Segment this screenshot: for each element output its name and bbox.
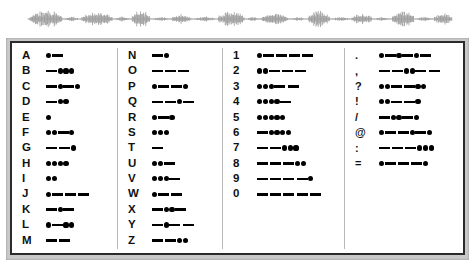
morse-dash: [257, 178, 268, 181]
morse-dot: [46, 176, 51, 181]
morse-dot: [410, 68, 415, 73]
morse-dot: [414, 53, 419, 58]
audio-waveform-panel: [0, 0, 475, 40]
code-row: T: [128, 140, 222, 155]
code-marks: [379, 79, 426, 94]
code-row: K: [22, 202, 117, 217]
morse-dot: [282, 145, 287, 150]
code-marks: [257, 48, 313, 63]
code-row: N: [128, 48, 222, 63]
morse-dot: [69, 222, 74, 227]
code-row: 2: [233, 63, 344, 78]
code-marks: [152, 140, 163, 155]
morse-dot: [288, 145, 293, 150]
code-marks: [46, 63, 74, 78]
morse-dot: [301, 161, 306, 166]
code-marks: [46, 156, 69, 171]
code-row: /: [355, 110, 463, 125]
code-marks: [152, 94, 194, 109]
morse-dot: [280, 115, 285, 120]
morse-dot: [158, 161, 163, 166]
code-row: 0: [233, 187, 344, 202]
morse-dash: [297, 193, 308, 196]
code-marks: [46, 187, 89, 202]
code-marks: [46, 217, 74, 232]
morse-dot: [295, 161, 300, 166]
code-row: 3: [233, 79, 344, 94]
morse-dot: [257, 99, 262, 104]
morse-dot: [46, 115, 51, 120]
code-marks: [379, 140, 434, 155]
code-key: W: [128, 188, 152, 200]
morse-dot: [58, 207, 63, 212]
morse-dash: [295, 70, 306, 73]
code-marks: [379, 110, 419, 125]
code-marks: [257, 140, 299, 155]
morse-dash: [171, 193, 182, 196]
code-row: O: [128, 63, 222, 78]
code-key: 1: [233, 50, 257, 62]
code-key: /: [355, 112, 379, 123]
code-row: @: [355, 125, 463, 140]
code-marks: [46, 79, 80, 94]
morse-dot: [58, 99, 63, 104]
morse-code-chart-screenshot: ABCDEFGHIJKLMNOPQRSTUVWXYZ1234567890.,?!…: [0, 0, 475, 264]
morse-dot: [427, 130, 432, 135]
morse-dot: [423, 161, 428, 166]
morse-dot: [75, 84, 80, 89]
morse-dot: [52, 130, 57, 135]
morse-dot: [177, 99, 182, 104]
morse-dash: [52, 193, 63, 196]
morse-dot: [414, 115, 419, 120]
morse-dash: [152, 70, 163, 73]
code-key: Y: [128, 219, 152, 231]
morse-dash: [59, 147, 70, 150]
morse-dot: [63, 68, 68, 73]
code-row: Y: [128, 217, 222, 232]
code-row: Z: [128, 233, 222, 248]
code-key: 3: [233, 81, 257, 93]
morse-dot: [63, 161, 68, 166]
code-row: ?: [355, 79, 463, 94]
code-row: A: [22, 48, 117, 63]
morse-dash: [46, 239, 57, 242]
morse-dot: [385, 84, 390, 89]
code-column-letters-a-m: ABCDEFGHIJKLM: [12, 48, 117, 249]
morse-dot: [415, 99, 420, 104]
code-row: Q: [128, 94, 222, 109]
code-key: Q: [128, 96, 152, 108]
morse-dot: [164, 176, 169, 181]
morse-dash: [46, 208, 57, 211]
morse-dot: [152, 115, 157, 120]
code-column-numbers: 1234567890: [222, 48, 344, 249]
morse-dash: [274, 85, 285, 88]
code-key: K: [22, 204, 46, 216]
code-key: C: [22, 81, 46, 93]
code-marks: [46, 171, 57, 186]
morse-dot: [169, 115, 174, 120]
code-row: X: [128, 202, 222, 217]
morse-dot: [58, 161, 63, 166]
morse-dash: [59, 239, 70, 242]
morse-dash: [257, 131, 268, 134]
code-row: =: [355, 156, 463, 171]
morse-dash: [310, 193, 321, 196]
morse-dash: [46, 85, 57, 88]
code-marks: [379, 48, 431, 63]
code-marks: [152, 156, 175, 171]
morse-dash: [52, 54, 63, 57]
morse-dash: [152, 224, 163, 227]
morse-dot: [158, 130, 163, 135]
morse-dot: [269, 115, 274, 120]
morse-dot: [263, 99, 268, 104]
morse-dash: [183, 101, 194, 104]
code-row: H: [22, 156, 117, 171]
morse-dot: [158, 176, 163, 181]
code-key: 4: [233, 96, 257, 108]
morse-dash: [379, 116, 390, 119]
morse-dash: [257, 147, 268, 150]
morse-dash: [297, 178, 308, 181]
morse-dash: [58, 131, 69, 134]
morse-dot: [379, 99, 384, 104]
morse-dash: [405, 147, 416, 150]
